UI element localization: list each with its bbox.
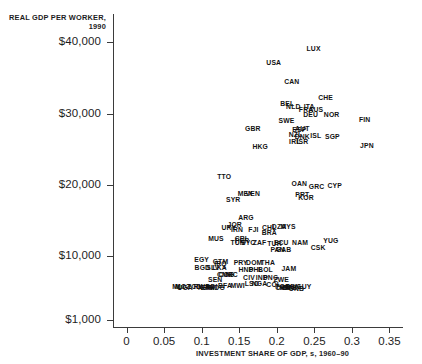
data-point-label: SYR [226, 195, 240, 202]
y-axis-title: REAL GDP PER WORKER, 1990 [8, 13, 106, 31]
x-tick-label: 0.05 [144, 335, 184, 347]
y-tick-mark [107, 185, 114, 186]
x-tick-mark [389, 327, 390, 333]
y-tick-label: $20,000 [59, 178, 101, 190]
data-point-label: JAM [281, 264, 296, 271]
y-tick-label: $40,000 [59, 35, 101, 47]
data-point-label: BOL [258, 265, 273, 272]
data-point-label: YUG [323, 236, 338, 243]
data-point-label: OAN [292, 180, 308, 187]
data-point-label: MYS [280, 222, 295, 229]
data-point-label: DEU [303, 110, 318, 117]
data-point-label: FJI [248, 225, 258, 232]
data-point-label: LUX [307, 45, 321, 52]
data-point-label: NAM [292, 239, 308, 246]
data-point-label: THA [261, 258, 275, 265]
data-point-label: NGA [252, 279, 268, 286]
x-tick-label: 0 [107, 335, 147, 347]
data-point-label: ISR [296, 138, 308, 145]
data-point-label: MUS [208, 235, 224, 242]
data-point-label: CAN [284, 77, 299, 84]
data-point-label: CSK [311, 244, 326, 251]
data-point-label: GRC [309, 183, 325, 190]
plot-area: $40,000$30,000$20,000$10,000$1,000 00.05… [113, 14, 403, 327]
x-axis-title: INVESTMENT SHARE OF GDP, s, 1960–90 [196, 349, 349, 358]
data-point-label: MWI [230, 282, 244, 289]
x-tick-mark [127, 327, 128, 333]
x-tick-label: 0.25 [294, 335, 334, 347]
data-point-label: SGP [325, 133, 340, 140]
data-point-label: GBR [245, 124, 261, 131]
data-point-label: MDG [209, 284, 225, 291]
data-point-label: NOR [324, 110, 340, 117]
x-tick-label: 0.35 [369, 335, 409, 347]
data-point-label: CHE [318, 93, 333, 100]
data-point-label: MLI [172, 283, 184, 290]
x-tick-mark [352, 327, 353, 333]
data-point-label: FIN [359, 116, 370, 123]
data-point-label: JPN [360, 141, 374, 148]
x-tick-mark [164, 327, 165, 333]
data-point-label: ARG [238, 213, 254, 220]
data-point-label: USA [266, 58, 281, 65]
x-tick-label: 0.3 [332, 335, 372, 347]
data-point-label: ZAF [253, 238, 267, 245]
data-point-label: TTO [217, 173, 231, 180]
y-tick-label: $1,000 [65, 313, 101, 325]
data-point-label: HKG [252, 143, 268, 150]
x-axis-line [113, 327, 403, 328]
data-point-label: KOR [298, 193, 314, 200]
x-tick-mark [239, 327, 240, 333]
y-tick-mark [107, 256, 114, 257]
data-point-label: VEN [246, 189, 260, 196]
scatter-chart-figure: REAL GDP PER WORKER, 1990 $40,000$30,000… [0, 0, 422, 364]
y-tick-mark [107, 114, 114, 115]
y-tick-label: $30,000 [59, 107, 101, 119]
x-tick-mark [202, 327, 203, 333]
y-tick-label: $10,000 [59, 249, 101, 261]
data-point-label: SWE [279, 116, 295, 123]
data-point-label: ISL [310, 131, 321, 138]
data-point-label: LKA [212, 263, 226, 270]
y-tick-mark [107, 42, 114, 43]
data-point-label: EGY [194, 255, 209, 262]
x-tick-label: 0.1 [182, 335, 222, 347]
x-tick-label: 0.2 [257, 335, 297, 347]
data-point-label: GAB [276, 245, 292, 252]
data-point-label: IRN [231, 225, 243, 232]
y-tick-mark [107, 320, 114, 321]
data-point-label: CYP [327, 182, 341, 189]
x-tick-mark [314, 327, 315, 333]
x-tick-label: 0.15 [219, 335, 259, 347]
data-point-label: TGO [275, 283, 290, 290]
x-tick-mark [277, 327, 278, 333]
